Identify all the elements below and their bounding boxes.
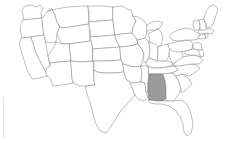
us-map-container [0, 0, 232, 143]
state-UT[interactable] [48, 42, 71, 63]
states-layer [19, 5, 218, 136]
state-DE[interactable] [199, 49, 204, 57]
state-FL[interactable] [148, 100, 193, 136]
state-WA[interactable] [22, 5, 43, 20]
state-CO[interactable] [70, 41, 93, 62]
state-ND[interactable] [88, 6, 113, 22]
state-SD[interactable] [89, 20, 115, 37]
state-KS[interactable] [93, 47, 121, 61]
state-OH[interactable] [157, 44, 170, 61]
state-NM[interactable] [71, 61, 95, 86]
state-OK[interactable] [93, 60, 124, 73]
state-OR[interactable] [20, 18, 44, 38]
us-states-map [0, 0, 232, 143]
state-NJ[interactable] [193, 42, 202, 50]
state-AL[interactable] [148, 74, 166, 101]
state-VT[interactable] [193, 20, 200, 30]
left-edge-artifact [3, 98, 4, 138]
state-ME[interactable] [204, 5, 218, 28]
